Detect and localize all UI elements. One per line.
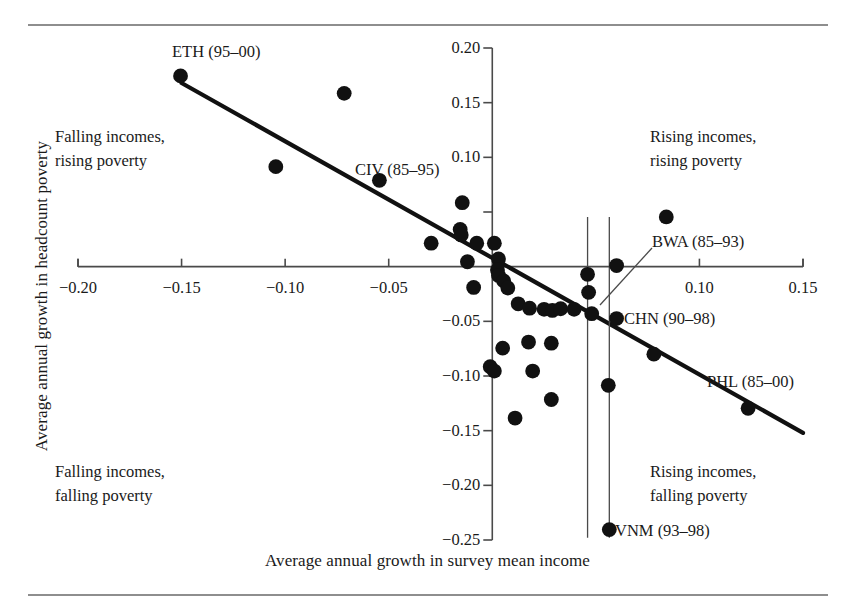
data-point xyxy=(268,159,283,174)
data-point xyxy=(487,236,502,251)
data-point xyxy=(580,267,595,282)
y-tick-label: −0.10 xyxy=(412,366,480,386)
x-tick-label: −0.15 xyxy=(162,278,200,298)
data-point xyxy=(173,68,188,83)
callout-pointer-bwa xyxy=(600,248,652,305)
x-tick-label: −0.05 xyxy=(370,278,408,298)
data-point xyxy=(522,301,537,316)
data-point xyxy=(581,285,596,300)
data-point xyxy=(495,341,510,356)
data-point xyxy=(609,258,624,273)
data-point xyxy=(424,236,439,251)
data-point xyxy=(455,195,470,210)
data-point xyxy=(469,236,484,251)
quadrant-label-top-right: Rising incomes, rising poverty xyxy=(650,125,756,173)
data-point xyxy=(609,311,624,326)
data-point xyxy=(544,336,559,351)
quadrant-label-bottom-right: Rising incomes, falling poverty xyxy=(650,460,756,508)
quadrant-label-bottom-left: Falling incomes, falling poverty xyxy=(55,460,165,508)
y-tick-label: −0.15 xyxy=(412,421,480,441)
point-label-phl: PHL (85–00) xyxy=(707,372,794,392)
data-point xyxy=(659,210,674,225)
data-point xyxy=(553,301,568,316)
y-tick-label: 0.10 xyxy=(412,147,480,167)
point-label-eth: ETH (95–00) xyxy=(172,42,260,62)
y-tick-label: −0.05 xyxy=(412,311,480,331)
data-point xyxy=(741,401,756,416)
data-point xyxy=(525,364,540,379)
y-tick-label: −0.20 xyxy=(412,475,480,495)
chart-figure: Average annual growth in headcount pover… xyxy=(0,0,855,604)
x-tick-label: 0.10 xyxy=(685,278,714,298)
y-tick-label: 0.20 xyxy=(412,38,480,58)
data-point xyxy=(487,364,502,379)
data-point xyxy=(454,228,469,243)
data-point xyxy=(337,86,352,101)
x-tick-label: −0.20 xyxy=(59,278,97,298)
point-label-chn: CHN (90–98) xyxy=(624,309,715,329)
point-label-vnm: VNM (93–98) xyxy=(615,521,710,541)
data-point xyxy=(508,411,523,426)
data-point xyxy=(500,281,515,296)
y-axis-title: Average annual growth in headcount pover… xyxy=(32,86,52,506)
plot-canvas xyxy=(0,0,855,604)
x-tick-label: 0.15 xyxy=(789,278,818,298)
y-tick-label: 0.15 xyxy=(412,93,480,113)
x-axis-title: Average annual growth in survey mean inc… xyxy=(0,551,855,571)
data-point xyxy=(544,392,559,407)
y-tick-label: −0.25 xyxy=(412,530,480,550)
x-tick-label: −0.10 xyxy=(266,278,304,298)
data-point xyxy=(521,335,536,350)
data-point xyxy=(567,302,582,317)
data-point xyxy=(460,254,475,269)
point-label-bwa: BWA (85–93) xyxy=(652,232,744,252)
quadrant-label-top-left: Falling incomes, rising poverty xyxy=(55,125,165,173)
data-point xyxy=(584,306,599,321)
data-point xyxy=(466,280,481,295)
data-point xyxy=(646,347,661,362)
data-point xyxy=(601,378,616,393)
